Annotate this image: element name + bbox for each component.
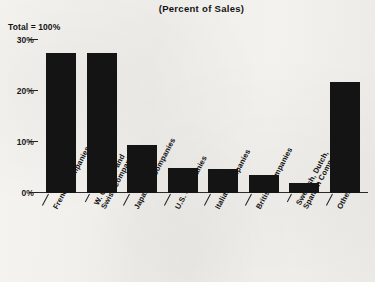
label-leader-line — [123, 194, 130, 206]
label-leader-line — [204, 194, 211, 206]
y-tick-label: 30% — [17, 35, 34, 45]
label-leader-line — [244, 194, 251, 206]
bar — [330, 82, 360, 193]
label-leader-line — [287, 194, 292, 203]
bar-chart: (Percent of Sales) Total = 100% 0%10%20%… — [0, 0, 375, 282]
total-annotation: Total = 100% — [8, 22, 60, 32]
chart-title: (Percent of Sales) — [0, 3, 375, 14]
label-leader-line — [325, 194, 332, 206]
label-leader-line — [163, 194, 170, 206]
y-tick-mark — [29, 90, 38, 92]
category-labels: French CompaniesW. German andSwiss Compa… — [0, 193, 375, 282]
label-leader-line — [84, 194, 89, 203]
y-tick-label: 10% — [17, 137, 34, 147]
y-tick-label: 20% — [17, 86, 34, 96]
y-tick-mark — [29, 141, 38, 143]
y-tick-mark — [29, 39, 38, 41]
label-leader-line — [42, 194, 49, 206]
